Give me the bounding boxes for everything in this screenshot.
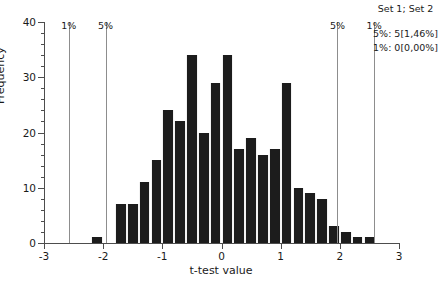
y-tick [38,243,44,244]
x-tick-label: -3 [39,250,49,262]
histogram-bar [257,155,269,243]
y-tick-minor [41,210,44,211]
legend-row-5pct: 5%: 5[1,46%] [373,27,438,41]
x-tick-label: 3 [396,250,403,262]
y-tick-minor [41,66,44,67]
x-tick [103,243,104,249]
threshold-label-upper-5pct: 5% [330,20,345,31]
histogram-bar [340,232,352,243]
histogram-bar [222,55,234,243]
histogram-bars [44,22,399,243]
x-tick [222,243,223,249]
y-tick-minor [41,110,44,111]
y-tick-minor [41,44,44,45]
y-tick-minor [41,88,44,89]
legend-title: Set 1; Set 2 [373,2,438,16]
y-tick-minor [41,121,44,122]
x-tick-label: -1 [157,250,167,262]
threshold-line-lower-1pct [69,22,70,243]
y-tick-minor [41,166,44,167]
threshold-line-lower-5pct [106,22,107,243]
histogram-bar [210,83,222,243]
y-tick-minor [41,232,44,233]
y-tick-minor [41,155,44,156]
y-tick-minor [41,144,44,145]
threshold-line-upper-1pct [374,22,375,243]
y-tick-label: 0 [29,237,36,249]
y-tick [38,188,44,189]
threshold-line-upper-5pct [337,22,338,243]
histogram-figure: -3-2-10123 010203040 1%5%5%1% t-test val… [0,0,442,282]
histogram-bar [316,199,328,243]
y-tick-minor [41,33,44,34]
histogram-bar [269,149,281,243]
y-tick-minor [41,99,44,100]
x-tick [162,243,163,249]
y-tick-label: 30 [23,71,36,83]
threshold-label-lower-1pct: 1% [61,20,76,31]
histogram-bar [352,237,364,243]
y-tick-minor [41,177,44,178]
y-tick-minor [41,55,44,56]
plot-area [44,22,399,243]
y-tick-minor [41,221,44,222]
histogram-bar [304,193,316,243]
histogram-bar [151,160,163,243]
x-axis-title: t-test value [0,264,442,277]
histogram-bar [198,133,210,244]
y-tick-label: 40 [23,16,36,28]
histogram-bar [139,182,151,243]
histogram-bar [127,204,139,243]
histogram-bar [91,237,103,243]
histogram-bar [281,83,293,243]
histogram-bar [186,55,198,243]
histogram-bar [115,204,127,243]
histogram-bar [174,121,186,243]
x-tick [399,243,400,249]
x-tick-label: 2 [336,250,343,262]
y-axis-title: Frequency [0,47,7,104]
y-tick [38,133,44,134]
threshold-label-lower-5pct: 5% [98,20,113,31]
x-tick [340,243,341,249]
x-tick [281,243,282,249]
histogram-bar [293,188,305,243]
x-tick-label: -2 [98,250,108,262]
histogram-bar [233,149,245,243]
y-tick-label: 10 [23,182,36,194]
legend: Set 1; Set 2 5%: 5[1,46%] 1%: 0[0,00%] [373,2,438,54]
y-tick-minor [41,199,44,200]
x-tick-label: 1 [277,250,284,262]
x-tick [44,243,45,249]
x-tick-label: 0 [218,250,225,262]
y-tick-label: 20 [23,127,36,139]
legend-row-1pct: 1%: 0[0,00%] [373,41,438,55]
histogram-bar [162,110,174,243]
histogram-bar [245,138,257,243]
y-tick [38,22,44,23]
y-tick [38,77,44,78]
